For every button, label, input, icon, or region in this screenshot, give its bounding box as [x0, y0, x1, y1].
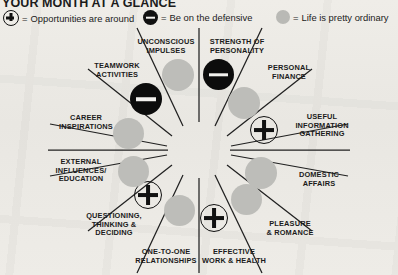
- sector-symbol-effective-work-and-health: [200, 204, 228, 232]
- sector-symbol-teamwork-activities: [130, 83, 162, 115]
- page-title: YOUR MONTH AT A GLANCE: [2, 0, 176, 10]
- legend-equals: =: [293, 12, 298, 23]
- sector-label-domestic-affairs: DOMESTIC AFFAIRS: [288, 171, 350, 188]
- legend-equals: =: [161, 12, 166, 23]
- legend-item-defensive: = Be on the defensive: [143, 10, 252, 25]
- sector-symbol-unconscious-impulses: [162, 59, 194, 91]
- sector-label-career-inspirations: CAREER INSPIRATIONS: [51, 114, 121, 131]
- sector-label-personal-finance: PERSONAL FINANCE: [258, 64, 320, 81]
- legend-item-opportunities: = Opportunities are around: [3, 10, 134, 26]
- plus-in-circle-icon: [3, 10, 19, 26]
- sector-label-pleasure-and-romance: PLEASURE & ROMANCE: [258, 220, 322, 237]
- wheel-spokes: [0, 26, 398, 275]
- sector-label-effective-work-and-health: EFFECTIVE WORK & HEALTH: [199, 248, 269, 265]
- legend-label: Be on the defensive: [169, 12, 252, 23]
- sector-symbol-strength-of-personality: [203, 59, 234, 90]
- sector-label-teamwork-activities: TEAMWORK ACTIVITIES: [82, 62, 152, 79]
- sector-symbol-personal-finance: [228, 87, 260, 119]
- sector-label-one-to-one-relationships: ONE-TO-ONE RELATIONSHIPS: [131, 248, 201, 265]
- sector-label-strength-of-personality: STRENGTH OF PERSONALITY: [203, 38, 271, 55]
- sector-symbol-external-influences-education: [118, 156, 149, 187]
- sector-label-external-influences-education: EXTERNAL INFLUENCES/ EDUCATION: [46, 158, 116, 184]
- grey-circle-icon: [276, 10, 290, 24]
- legend-label: Opportunities are around: [30, 13, 134, 24]
- sector-symbol-useful-information-gathering: [250, 116, 278, 144]
- black-minus-circle-icon: [143, 10, 158, 25]
- sector-label-useful-information-gathering: USEFUL INFORMATION GATHERING: [285, 113, 359, 139]
- sector-label-questioning-thinking-deciding: QUESTIONING, THINKING & DECIDING: [79, 212, 149, 238]
- legend-equals: =: [22, 13, 27, 24]
- legend-label: Life is pretty ordinary: [301, 12, 388, 23]
- sector-symbol-pleasure-and-romance: [231, 184, 262, 215]
- sector-symbol-one-to-one-relationships: [164, 195, 195, 226]
- month-at-a-glance-wheel: STRENGTH OF PERSONALITY PERSONAL FINANCE…: [0, 26, 398, 275]
- legend-item-ordinary: = Life is pretty ordinary: [276, 10, 389, 24]
- sector-label-unconscious-impulses: UNCONSCIOUS IMPULSES: [132, 38, 200, 55]
